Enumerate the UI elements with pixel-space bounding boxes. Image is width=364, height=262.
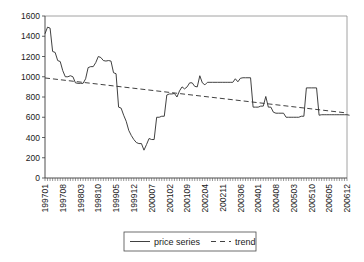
y-tick-label: 600: [26, 112, 40, 122]
x-tick-label: 199905: [111, 184, 121, 213]
y-tick-label: 1400: [21, 31, 40, 41]
y-tick-label: 400: [26, 133, 40, 143]
x-tick-label: 200503: [289, 184, 299, 213]
x-tick-label: 200510: [307, 184, 317, 213]
x-tick-label: 200605: [324, 184, 334, 213]
x-tick-label: 200612: [342, 184, 352, 213]
x-tick-label: 200306: [236, 184, 246, 213]
chart-container: 02004006008001000120014001600 1997011997…: [0, 0, 364, 262]
legend: price series trend: [124, 232, 256, 251]
x-tick-label: 200102: [165, 184, 175, 213]
x-tick-label: 200007: [147, 184, 157, 213]
x-tick-label: 200408: [271, 184, 281, 213]
y-tick-label: 1200: [21, 52, 40, 62]
price-series-trend-chart: 02004006008001000120014001600 1997011997…: [0, 0, 364, 262]
x-tick-label: 200401: [253, 184, 263, 213]
x-tick-label: 199810: [93, 184, 103, 213]
x-tick-label: 199912: [129, 184, 139, 213]
y-tick-label: 1600: [21, 11, 40, 21]
legend-label-price-series: price series: [154, 237, 201, 247]
price-series-path: [45, 27, 350, 150]
y-axis-ticks: 02004006008001000120014001600: [21, 11, 45, 183]
plot-frame: [45, 16, 347, 178]
x-tick-label: 200109: [182, 184, 192, 213]
trend-line-path: [45, 78, 347, 113]
x-tick-label: 199708: [58, 184, 68, 213]
x-axis-tick-labels: 1997011997081998031998101999051999122000…: [40, 184, 352, 213]
legend-label-trend: trend: [235, 237, 256, 247]
y-tick-label: 200: [26, 153, 40, 163]
y-tick-label: 800: [26, 92, 40, 102]
x-tick-label: 200204: [200, 184, 210, 213]
x-tick-label: 199803: [76, 184, 86, 213]
y-tick-label: 0: [35, 173, 40, 183]
x-tick-label: 200211: [218, 184, 228, 212]
x-tick-label: 199701: [40, 184, 50, 213]
y-tick-label: 1000: [21, 72, 40, 82]
